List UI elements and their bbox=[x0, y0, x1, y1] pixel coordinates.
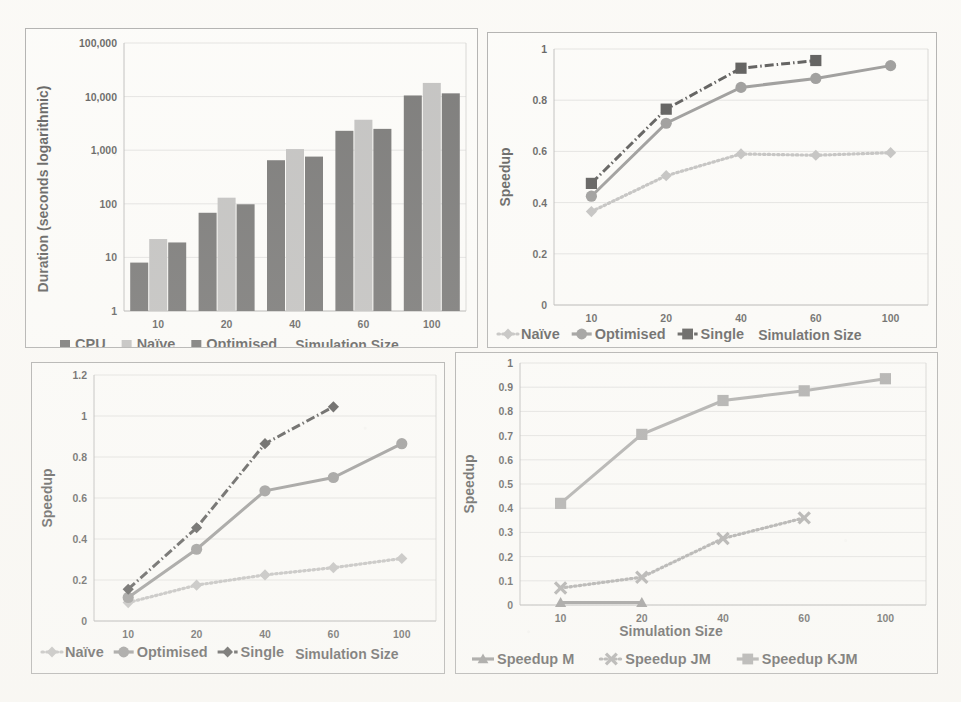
legend-item-single[interactable]: Single bbox=[678, 326, 745, 342]
data-point-speedupkjm bbox=[799, 385, 810, 396]
legend-label: Single bbox=[241, 644, 285, 660]
chart-panel-duration-bar-chart: 1101001,00010,000100,00010204060100Durat… bbox=[25, 28, 478, 348]
bar-cpu-100 bbox=[404, 95, 422, 311]
data-point-nave bbox=[735, 148, 746, 159]
y-axis-tick-label: 1,000 bbox=[91, 144, 117, 156]
y-axis-tick-label: 0.8 bbox=[498, 405, 513, 417]
y-axis-tick-label: 0.2 bbox=[72, 574, 87, 586]
bar-optimised-20 bbox=[237, 204, 255, 311]
legend-label[interactable]: Naïve bbox=[137, 336, 176, 347]
legend-label: Naïve bbox=[65, 644, 104, 660]
data-point-optimised bbox=[735, 82, 746, 93]
legend-label: Speedup JM bbox=[625, 651, 710, 667]
data-point-speedupkjm bbox=[717, 395, 728, 406]
data-point-optimised bbox=[396, 438, 407, 449]
data-point-nave bbox=[586, 206, 597, 217]
data-point-optimised bbox=[661, 118, 672, 129]
legend-marker bbox=[47, 647, 58, 658]
speedup-multi-chart-svg: 00.20.40.60.8110204060100SpeedupNaïveOpt… bbox=[488, 33, 936, 347]
legend-marker bbox=[682, 329, 693, 340]
y-axis-tick-label: 0.7 bbox=[498, 430, 513, 442]
y-axis-tick-label: 1 bbox=[541, 43, 547, 55]
legend-label: Optimised bbox=[137, 644, 208, 660]
legend-item-nave[interactable]: Naïve bbox=[42, 644, 104, 660]
legend-item-speedupkjm[interactable]: Speedup KJM bbox=[737, 651, 858, 667]
y-axis-title: Speedup bbox=[497, 147, 513, 206]
y-axis-tick-label: 1 bbox=[81, 410, 87, 422]
data-point-single bbox=[586, 178, 597, 189]
series-line-speedupjm bbox=[561, 518, 805, 588]
x-axis-tick-label: 10 bbox=[152, 318, 164, 330]
series-line-nave bbox=[128, 558, 402, 602]
data-point-optimised bbox=[885, 60, 896, 71]
x-axis-tick-label: 40 bbox=[735, 312, 747, 324]
x-axis-tick-label: 40 bbox=[259, 628, 271, 640]
legend-marker bbox=[118, 647, 129, 658]
data-point-speedupkjm bbox=[880, 373, 891, 384]
data-point-optimised bbox=[586, 191, 597, 202]
bar-cpu-60 bbox=[335, 131, 353, 311]
y-axis-title: Duration (seconds logarithmic) bbox=[35, 86, 51, 293]
y-axis-tick-label: 0.5 bbox=[498, 478, 513, 490]
data-point-speedupkjm bbox=[555, 498, 566, 509]
x-axis-tick-label: 10 bbox=[555, 612, 567, 624]
bar-optimised-100 bbox=[442, 93, 460, 311]
legend-item-optimised[interactable]: Optimised bbox=[114, 644, 208, 660]
legend-item-speedupjm[interactable]: Speedup JM bbox=[600, 651, 710, 667]
data-point-optimised bbox=[328, 472, 339, 483]
data-point-speedupkjm bbox=[636, 429, 647, 440]
y-axis-tick-label: 1 bbox=[111, 305, 117, 317]
legend-label: Optimised bbox=[595, 326, 666, 342]
legend-label: Speedup KJM bbox=[762, 651, 858, 667]
x-axis-tick-label: 20 bbox=[191, 628, 203, 640]
data-point-optimised bbox=[259, 485, 270, 496]
y-axis-tick-label: 0 bbox=[507, 599, 513, 611]
x-axis-tick-label: 40 bbox=[289, 318, 301, 330]
x-axis-tick-label: 10 bbox=[122, 628, 134, 640]
legend-label: Speedup M bbox=[497, 651, 574, 667]
legend-label[interactable]: CPU bbox=[75, 336, 106, 347]
y-axis-tick-label: 0.4 bbox=[498, 502, 513, 514]
bar-cpu-40 bbox=[267, 160, 285, 311]
bar-cpu-10 bbox=[130, 263, 148, 311]
y-axis-tick-label: 0.4 bbox=[72, 533, 87, 545]
data-point-nave bbox=[259, 569, 270, 580]
y-axis-tick-label: 0.9 bbox=[498, 381, 513, 393]
legend-item-speedupm[interactable]: Speedup M bbox=[472, 651, 574, 667]
legend-marker bbox=[503, 329, 514, 340]
x-axis-title: Simulation Size bbox=[619, 623, 723, 639]
legend-swatch-nave bbox=[122, 340, 132, 347]
y-axis-tick-label: 10 bbox=[105, 251, 117, 263]
y-axis-tick-label: 1.2 bbox=[72, 369, 87, 381]
legend-item-single[interactable]: Single bbox=[218, 644, 285, 660]
x-axis-tick-label: 100 bbox=[882, 312, 900, 324]
y-axis-tick-label: 0.2 bbox=[532, 248, 547, 260]
legend-label: Single bbox=[701, 326, 745, 342]
legend-item-optimised[interactable]: Optimised bbox=[572, 326, 666, 342]
y-axis-tick-label: 0.6 bbox=[498, 454, 513, 466]
bar-nave-100 bbox=[423, 83, 441, 311]
y-axis-tick-label: 0.4 bbox=[532, 197, 547, 209]
legend-swatch-optimised bbox=[191, 340, 201, 347]
legend-label[interactable]: Optimised bbox=[206, 336, 277, 347]
data-point-nave bbox=[885, 147, 896, 158]
y-axis-tick-label: 0.8 bbox=[72, 451, 87, 463]
data-point-nave bbox=[191, 580, 202, 591]
bar-optimised-10 bbox=[168, 242, 186, 311]
x-axis-tick-label: 100 bbox=[423, 318, 441, 330]
y-axis-tick-label: 0.6 bbox=[72, 492, 87, 504]
y-axis-tick-label: 0 bbox=[541, 299, 547, 311]
data-point-single bbox=[810, 55, 821, 66]
x-axis-title: Simulation Size bbox=[295, 646, 399, 662]
bar-optimised-60 bbox=[373, 129, 391, 311]
data-point-optimised bbox=[810, 73, 821, 84]
x-axis-title: Simulation Size bbox=[295, 337, 399, 347]
chart-panel-speedup-mjm-chart: 00.10.20.30.40.50.60.70.80.9110204060100… bbox=[455, 352, 938, 674]
y-axis-tick-label: 0.6 bbox=[532, 145, 547, 157]
bar-nave-40 bbox=[286, 149, 304, 311]
x-axis-tick-label: 10 bbox=[586, 312, 598, 324]
x-axis-tick-label: 60 bbox=[328, 628, 340, 640]
bar-nave-20 bbox=[218, 198, 236, 311]
y-axis-tick-label: 0.1 bbox=[498, 575, 513, 587]
legend-item-nave[interactable]: Naïve bbox=[498, 326, 560, 342]
